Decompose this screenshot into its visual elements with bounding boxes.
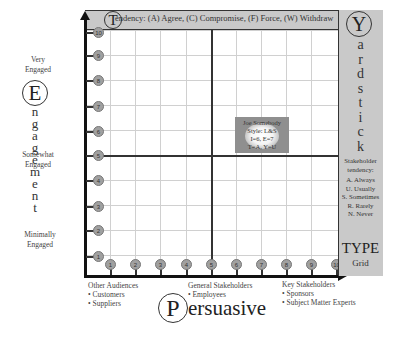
marker-name: Joe Somebody [235, 119, 289, 127]
group-other-audiences: Other Audiences • Customers • Suppliers [88, 281, 138, 308]
gridline-v [286, 30, 287, 276]
y-tick: 3 [93, 201, 104, 212]
y-tick: 9 [93, 50, 104, 61]
yardstick-letter: r [338, 53, 383, 68]
x-tick: 4 [181, 259, 192, 270]
x-tick: 9 [306, 259, 317, 270]
type-label: TYPE [338, 240, 383, 257]
gridline-v [311, 30, 312, 276]
stakeholder-marker[interactable]: Joe Somebody Style: L&S I=6, E=7 T=A, Y=… [235, 117, 289, 153]
yardstick-vertical-label: a r d s t i c k [338, 38, 383, 154]
level-somewhat-engaged: Somewhat Engaged [8, 150, 68, 169]
persuasive-initial-circle: P [158, 293, 188, 323]
legend-item: N. Never [338, 210, 383, 219]
legend-title-line1: Stakeholder [338, 157, 383, 166]
y-tick: 8 [93, 75, 104, 86]
x-tick: 7 [256, 259, 267, 270]
group-item: • Suppliers [88, 299, 138, 308]
marker-style: Style: L&S [235, 127, 289, 135]
group-item: • Subject Matter Experts [282, 298, 356, 307]
group-title: General Stakeholders [188, 281, 252, 290]
group-item: • Customers [88, 290, 138, 299]
gridline-v [110, 30, 111, 276]
x-axis-line [84, 275, 341, 278]
yardstick-letter: k [338, 140, 383, 155]
y-tick: 2 [93, 225, 104, 236]
level-line: Engaged [8, 65, 68, 75]
engagement-persuasive-grid [85, 30, 338, 276]
level-very-engaged: Very Engaged [8, 55, 68, 74]
x-tick: 5 [206, 259, 217, 270]
engagement-initial-circle: E [22, 80, 48, 106]
y-axis-line [84, 18, 87, 277]
level-line: Somewhat [8, 150, 68, 160]
legend-item: A. Always [338, 176, 383, 185]
arrow-up-icon [80, 11, 90, 20]
marker-scores: I=6, E=7 [235, 135, 289, 143]
x-tick: 3 [155, 259, 166, 270]
yardstick-letter: a [338, 38, 383, 53]
gridline-v [186, 30, 187, 276]
legend-item: U. Usually [338, 185, 383, 194]
stakeholder-tendency-legend: Stakeholder tendency: A. Always U. Usual… [338, 157, 383, 219]
gridline-v [261, 30, 262, 276]
marker-types: T=A, Y=U [235, 143, 289, 151]
level-line: Very [8, 55, 68, 65]
x-tick: 2 [130, 259, 141, 270]
legend-item: R. Rarely [338, 202, 383, 211]
quadrant-divider-horizontal [85, 155, 338, 157]
yardstick-letter: t [338, 96, 383, 111]
yardstick-letter: c [338, 125, 383, 140]
gridline-v [160, 30, 161, 276]
quadrant-divider-vertical [211, 30, 213, 276]
yardstick-letter: s [338, 82, 383, 97]
y-tick: 5 [93, 150, 104, 161]
yardstick-letter: i [338, 111, 383, 126]
x-tick: 6 [231, 259, 242, 270]
y-tick: 4 [93, 175, 104, 186]
gridline-v [236, 30, 237, 276]
level-minimally-engaged: Minimally Engaged [10, 230, 70, 249]
y-tick: 7 [93, 101, 104, 112]
legend-item: S. Sometimes [338, 193, 383, 202]
y-tick: 6 [93, 126, 104, 137]
tendency-header-text: endency: (A) Agree, (C) Compromise, (F) … [115, 13, 333, 23]
group-title: Other Audiences [88, 281, 138, 290]
y-tick: 1 [93, 251, 104, 262]
level-line: Engaged [8, 160, 68, 170]
y-tick: 10 [93, 27, 104, 38]
level-line: Minimally [10, 230, 70, 240]
group-general-stakeholders: General Stakeholders • Employees [188, 281, 252, 299]
yardstick-initial-circle: Y [346, 11, 372, 37]
gridline-v [135, 30, 136, 276]
x-tick: 1 [105, 259, 116, 270]
group-title: Key Stakeholders [282, 280, 356, 289]
engagement-letter: t [28, 202, 42, 214]
x-tick: 8 [281, 259, 292, 270]
group-item: • Employees [188, 290, 252, 299]
yardstick-letter: d [338, 67, 383, 82]
persuasive-label: ersuasive [188, 296, 266, 321]
group-item: • Sponsors [282, 289, 356, 298]
grid-label: Grid [338, 258, 383, 268]
group-key-stakeholders: Key Stakeholders • Sponsors • Subject Ma… [282, 280, 356, 307]
legend-title-line2: tendency: [338, 166, 383, 175]
level-line: Engaged [10, 240, 70, 250]
